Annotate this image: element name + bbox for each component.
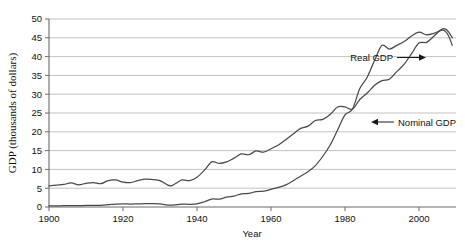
y-tick-label-40: 40 <box>31 51 42 62</box>
y-axis-title: GDP (thousands of dollars) <box>6 53 19 174</box>
y-tick-label-45: 45 <box>31 32 42 43</box>
y-tick-label-15: 15 <box>31 145 42 156</box>
y-tick-label-25: 25 <box>31 107 42 118</box>
x-tick-label-1900: 1900 <box>38 213 59 224</box>
x-tick-label-1980: 1980 <box>334 213 355 224</box>
x-tick-label-1920: 1920 <box>112 213 133 224</box>
x-tick-label-1940: 1940 <box>186 213 207 224</box>
real-gdp-arrow-head-icon <box>419 54 426 61</box>
y-tick-label-30: 30 <box>31 89 42 100</box>
gdp-chart: 05101520253035404550 1900192019401960198… <box>0 0 465 250</box>
nominal-gdp-annotation: Nominal GDP <box>371 117 456 128</box>
y-tick-label-50: 50 <box>31 13 42 24</box>
chart-canvas: 05101520253035404550 1900192019401960198… <box>0 0 465 250</box>
y-tick-label-35: 35 <box>31 70 42 81</box>
real-gdp-annotation: Real GDP <box>350 52 426 63</box>
y-tick-label-5: 5 <box>37 183 42 194</box>
y-tick-label-20: 20 <box>31 126 42 137</box>
y-tick-label-10: 10 <box>31 164 42 175</box>
y-tick-label-0: 0 <box>37 201 42 212</box>
x-axis-title: Year <box>242 228 261 239</box>
x-tick-labels: 190019201940196019802000 <box>38 213 429 224</box>
x-tick-label-1960: 1960 <box>260 213 281 224</box>
x-tick-label-2000: 2000 <box>408 213 429 224</box>
tick-marks <box>45 19 419 211</box>
real-gdp-label: Real GDP <box>350 52 393 63</box>
y-tick-labels: 05101520253035404550 <box>31 13 42 212</box>
nominal-gdp-label: Nominal GDP <box>398 117 456 128</box>
gridlines <box>49 19 456 188</box>
